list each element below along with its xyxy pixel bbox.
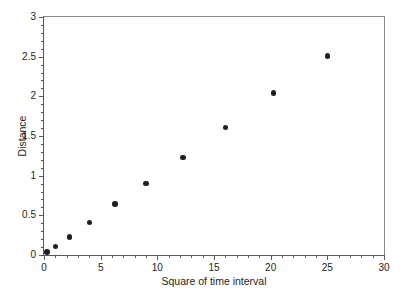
- x-axis-minor-tick: [123, 255, 124, 258]
- y-axis-minor-tick: [41, 73, 44, 74]
- y-axis-minor-tick: [41, 65, 44, 66]
- y-axis-tick-label: 3: [30, 12, 36, 22]
- x-axis-minor-tick: [169, 255, 170, 258]
- y-axis-tick: [39, 57, 44, 58]
- x-axis-minor-tick: [67, 255, 68, 258]
- data-point: [53, 244, 59, 250]
- x-axis-tick-label: 10: [152, 263, 163, 273]
- x-axis-minor-tick: [112, 255, 113, 258]
- x-axis-tick-label: 5: [98, 263, 104, 273]
- x-axis-minor-tick: [339, 255, 340, 258]
- x-axis-tick: [214, 255, 215, 260]
- x-axis-minor-tick: [373, 255, 374, 258]
- x-axis-minor-tick: [305, 255, 306, 258]
- x-axis-minor-tick: [55, 255, 56, 258]
- y-axis-tick: [39, 17, 44, 18]
- y-axis-minor-tick: [41, 168, 44, 169]
- y-axis-minor-tick: [41, 184, 44, 185]
- scatter-chart-figure: 00.511.522.53051015202530 Square of time…: [0, 0, 402, 300]
- y-axis-minor-tick: [41, 247, 44, 248]
- x-axis-title: Square of time interval: [43, 276, 385, 287]
- data-point: [271, 90, 277, 96]
- y-axis-tick-label: 1: [30, 171, 36, 181]
- x-axis-minor-tick: [237, 255, 238, 258]
- x-axis-minor-tick: [350, 255, 351, 258]
- x-axis-minor-tick: [180, 255, 181, 258]
- y-axis-minor-tick: [41, 160, 44, 161]
- x-axis-tick-label: 15: [208, 263, 219, 273]
- y-axis-tick-label: 0: [30, 250, 36, 260]
- x-axis-tick-label: 0: [41, 263, 47, 273]
- y-axis-minor-tick: [41, 239, 44, 240]
- y-axis-minor-tick: [41, 120, 44, 121]
- y-axis-minor-tick: [41, 152, 44, 153]
- y-axis-tick: [39, 96, 44, 97]
- data-point: [67, 234, 73, 240]
- x-axis-tick-label: 30: [378, 263, 389, 273]
- x-axis-minor-tick: [135, 255, 136, 258]
- y-axis-title: Distance: [17, 116, 28, 157]
- y-axis-minor-tick: [41, 144, 44, 145]
- y-axis-tick: [39, 136, 44, 137]
- x-axis-minor-tick: [89, 255, 90, 258]
- data-point: [143, 181, 149, 187]
- data-point: [44, 249, 50, 255]
- y-axis-minor-tick: [41, 199, 44, 200]
- x-axis-minor-tick: [293, 255, 294, 258]
- y-axis-minor-tick: [41, 41, 44, 42]
- y-axis-tick-label: 2: [30, 91, 36, 101]
- plot-area: 00.511.522.53051015202530: [43, 16, 385, 256]
- y-axis-minor-tick: [41, 231, 44, 232]
- data-point: [180, 155, 186, 161]
- y-axis-tick: [39, 215, 44, 216]
- x-axis-tick: [157, 255, 158, 260]
- y-axis-minor-tick: [41, 207, 44, 208]
- x-axis-minor-tick: [316, 255, 317, 258]
- x-axis-minor-tick: [361, 255, 362, 258]
- y-axis-minor-tick: [41, 25, 44, 26]
- data-point: [112, 201, 118, 207]
- x-axis-minor-tick: [146, 255, 147, 258]
- y-axis-minor-tick: [41, 88, 44, 89]
- x-axis-tick-label: 20: [265, 263, 276, 273]
- y-axis-tick: [39, 176, 44, 177]
- y-axis-minor-tick: [41, 223, 44, 224]
- x-axis-tick: [101, 255, 102, 260]
- y-axis-tick-label: 0.5: [22, 210, 36, 220]
- y-axis-minor-tick: [41, 49, 44, 50]
- x-axis-tick: [384, 255, 385, 260]
- x-axis-tick-label: 25: [322, 263, 333, 273]
- y-axis-minor-tick: [41, 33, 44, 34]
- x-axis-minor-tick: [248, 255, 249, 258]
- x-axis-tick: [327, 255, 328, 260]
- y-axis-minor-tick: [41, 104, 44, 105]
- data-point: [223, 125, 229, 131]
- x-axis-minor-tick: [191, 255, 192, 258]
- y-axis-tick-label: 2.5: [22, 52, 36, 62]
- x-axis-tick: [44, 255, 45, 260]
- x-axis-minor-tick: [259, 255, 260, 258]
- data-point: [325, 53, 331, 59]
- y-axis-minor-tick: [41, 192, 44, 193]
- x-axis-minor-tick: [78, 255, 79, 258]
- y-axis-minor-tick: [41, 80, 44, 81]
- x-axis-minor-tick: [282, 255, 283, 258]
- y-axis-minor-tick: [41, 128, 44, 129]
- y-axis-minor-tick: [41, 112, 44, 113]
- x-axis-minor-tick: [203, 255, 204, 258]
- data-point: [87, 220, 93, 226]
- x-axis-minor-tick: [225, 255, 226, 258]
- x-axis-tick: [271, 255, 272, 260]
